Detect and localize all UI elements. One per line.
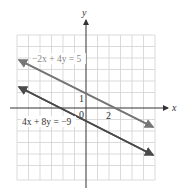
x-tick-2: 2 (106, 110, 111, 121)
line-2-label: 4x + 8y = −9 (22, 117, 72, 127)
origin-label: 0 (79, 109, 84, 120)
x-axis-label: x (171, 102, 177, 113)
graph: y x 0 2 1 −2x + 4y = 5 4x + 8y = −9 (0, 0, 187, 194)
line-1-label: −2x + 4y = 5 (32, 54, 82, 64)
y-axis-label: y (81, 7, 87, 18)
y-tick-1: 1 (79, 93, 84, 104)
